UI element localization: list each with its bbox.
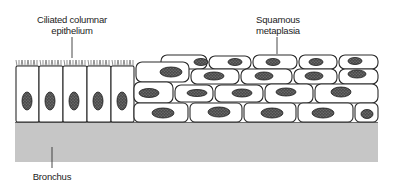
ciliated-columnar-cells xyxy=(16,66,134,122)
label-line: Squamous xyxy=(238,14,318,25)
label-line: Ciliated columnar xyxy=(22,14,122,25)
label-line: Bronchus xyxy=(22,171,82,182)
squamous-metaplasia-diagram: Ciliated columnar epithelium Squamous me… xyxy=(0,0,394,188)
label-squamous-metaplasia: Squamous metaplasia xyxy=(238,14,318,36)
label-bronchus: Bronchus xyxy=(22,171,82,182)
label-line: metaplasia xyxy=(238,25,318,36)
label-line: epithelium xyxy=(22,25,122,36)
bronchus-wall xyxy=(15,122,378,162)
squamous-cells xyxy=(134,55,378,122)
label-ciliated-columnar-epithelium: Ciliated columnar epithelium xyxy=(22,14,122,36)
cilia xyxy=(16,60,133,66)
